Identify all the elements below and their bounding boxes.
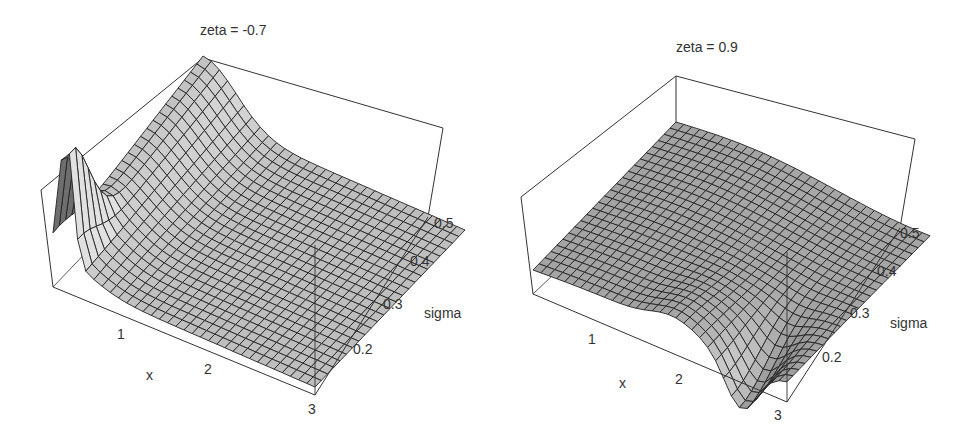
y-tick-0.2: 0.2 [353, 342, 372, 356]
surface-plot-zeta-neg07: zeta = -0.7 1 2 3 x 0.2 0.3 0.4 0.5 sigm… [0, 0, 484, 445]
y-tick-0.4: 0.4 [410, 254, 429, 268]
y-tick-0.3: 0.3 [850, 306, 869, 320]
x-axis-label: x [619, 376, 626, 390]
surface-canvas [484, 0, 969, 445]
x-axis-label: x [146, 368, 153, 382]
y-tick-0.5: 0.5 [434, 216, 453, 230]
y-tick-0.2: 0.2 [822, 350, 841, 364]
x-tick-2: 2 [675, 372, 683, 386]
surface-canvas [0, 0, 484, 445]
y-tick-0.5: 0.5 [900, 226, 919, 240]
y-axis-label: sigma [890, 316, 927, 330]
x-tick-3: 3 [308, 402, 316, 416]
x-tick-3: 3 [774, 408, 782, 422]
plot-title: zeta = -0.7 [200, 23, 267, 37]
x-tick-1: 1 [117, 327, 125, 341]
y-tick-0.3: 0.3 [383, 297, 402, 311]
y-tick-0.4: 0.4 [877, 264, 896, 278]
x-tick-2: 2 [204, 362, 212, 376]
y-axis-label: sigma [424, 306, 461, 320]
surface-plot-zeta-09: zeta = 0.9 1 2 3 x 0.2 0.3 0.4 0.5 sigma [484, 0, 969, 445]
x-tick-1: 1 [588, 332, 596, 346]
plot-title: zeta = 0.9 [676, 40, 738, 54]
